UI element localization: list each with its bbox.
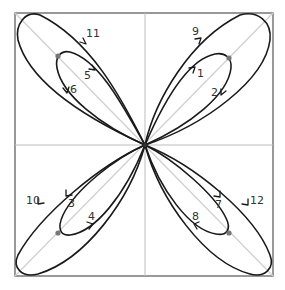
petal-loop-diagram: 11 5 6 9 1 2 10 3 4 7 12 8 bbox=[0, 0, 285, 290]
label-11: 11 bbox=[86, 27, 100, 40]
arrow-9-icon bbox=[195, 38, 201, 44]
label-3: 3 bbox=[68, 197, 75, 210]
tip-dot-top-left bbox=[55, 53, 60, 58]
tip-dot-top-right bbox=[226, 55, 231, 60]
center-point bbox=[143, 143, 147, 147]
label-8: 8 bbox=[192, 210, 199, 223]
label-5: 5 bbox=[84, 69, 91, 82]
label-1: 1 bbox=[197, 67, 204, 80]
label-6: 6 bbox=[70, 83, 77, 96]
label-10: 10 bbox=[26, 194, 40, 207]
tip-dot-bottom-left bbox=[55, 230, 60, 235]
inner-loop-top-left bbox=[57, 52, 145, 145]
label-9: 9 bbox=[192, 25, 199, 38]
inner-loop-bottom-left bbox=[60, 145, 145, 235]
label-4: 4 bbox=[88, 210, 95, 223]
tip-dot-bottom-right bbox=[226, 230, 231, 235]
label-12: 12 bbox=[250, 194, 264, 207]
arrow-12-icon bbox=[242, 199, 248, 205]
label-2: 2 bbox=[211, 86, 218, 99]
label-7: 7 bbox=[215, 198, 222, 211]
